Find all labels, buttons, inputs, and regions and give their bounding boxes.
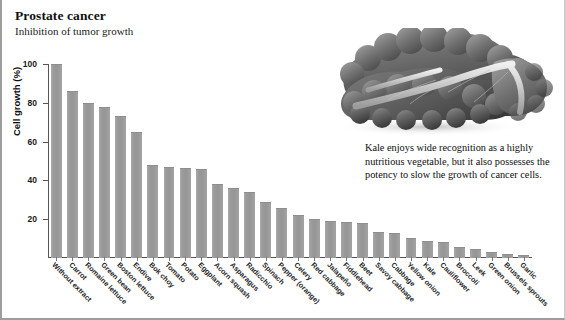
bar-slot <box>435 64 451 258</box>
bar-slot <box>64 64 80 258</box>
bar[interactable] <box>325 221 336 258</box>
x-axis-tick <box>492 257 493 261</box>
bar[interactable] <box>406 238 417 258</box>
x-axis-tick <box>217 257 218 261</box>
bar-slot <box>193 64 209 258</box>
y-axis-tick-label: 80 <box>11 99 37 107</box>
x-axis-tick <box>524 257 525 261</box>
bar[interactable] <box>293 215 304 258</box>
x-axis-tick <box>153 257 154 261</box>
x-axis-tick <box>282 257 283 261</box>
bar-slot <box>451 64 467 258</box>
plot-area <box>48 64 532 258</box>
bar[interactable] <box>131 132 142 258</box>
bar-slot <box>403 64 419 258</box>
x-axis-tick <box>137 257 138 261</box>
bar[interactable] <box>260 202 271 258</box>
bar-slot <box>484 64 500 258</box>
bar[interactable] <box>196 169 207 258</box>
y-axis-tick <box>43 64 49 65</box>
bar[interactable] <box>147 165 158 258</box>
y-axis-tick <box>43 219 49 220</box>
x-axis-tick <box>121 257 122 261</box>
bar[interactable] <box>244 192 255 258</box>
x-axis-labels: Without extractCarrotRomaine lettuceGree… <box>48 261 532 319</box>
x-axis-tick <box>314 257 315 261</box>
bar-slot <box>290 64 306 258</box>
bar-slot <box>48 64 64 258</box>
bar-slot <box>129 64 145 258</box>
bar-slot <box>209 64 225 258</box>
bar[interactable] <box>438 242 449 258</box>
x-axis-tick <box>88 257 89 261</box>
bar-slot <box>306 64 322 258</box>
y-axis-tick-label: 20 <box>11 215 37 223</box>
x-axis-tick <box>250 257 251 261</box>
x-axis-tick <box>72 257 73 261</box>
bar-slot <box>322 64 338 258</box>
y-axis-tick <box>43 180 49 181</box>
bar[interactable] <box>67 91 78 258</box>
bar-slot <box>371 64 387 258</box>
bar-slot <box>419 64 435 258</box>
bar[interactable] <box>389 233 400 258</box>
y-axis-tick <box>43 142 49 143</box>
x-axis-tick <box>330 257 331 261</box>
chart-figure: Prostate cancer Inhibition of tumor grow… <box>0 0 565 320</box>
bar[interactable] <box>51 64 62 258</box>
bar[interactable] <box>309 219 320 258</box>
page-title: Prostate cancer <box>15 8 133 23</box>
x-axis-tick <box>298 257 299 261</box>
x-axis-tick <box>104 257 105 261</box>
bar-series <box>48 64 532 258</box>
bar-slot <box>242 64 258 258</box>
x-axis-tick <box>476 257 477 261</box>
x-axis-tick <box>234 257 235 261</box>
x-axis-tick <box>201 257 202 261</box>
x-axis-tick <box>346 257 347 261</box>
bar[interactable] <box>341 222 352 258</box>
bar-slot <box>338 64 354 258</box>
x-axis-tick <box>395 257 396 261</box>
y-axis-tick <box>43 103 49 104</box>
chart-heading: Prostate cancer Inhibition of tumor grow… <box>15 8 133 38</box>
bar[interactable] <box>99 107 110 258</box>
bar-slot <box>113 64 129 258</box>
bar-slot <box>161 64 177 258</box>
x-axis-tick <box>169 257 170 261</box>
bar-slot <box>516 64 532 258</box>
bar[interactable] <box>212 184 223 258</box>
y-axis-tick-label: 100 <box>11 60 37 68</box>
bar-slot <box>258 64 274 258</box>
bar[interactable] <box>180 168 191 258</box>
bar-slot <box>80 64 96 258</box>
y-axis-tick-label: 60 <box>11 138 37 146</box>
x-axis-tick <box>411 257 412 261</box>
x-axis-tick <box>266 257 267 261</box>
bar-slot <box>467 64 483 258</box>
x-axis-tick <box>379 257 380 261</box>
bar[interactable] <box>228 188 239 258</box>
bar-slot <box>96 64 112 258</box>
x-axis-tick <box>56 257 57 261</box>
bar[interactable] <box>357 223 368 258</box>
x-axis-tick <box>443 257 444 261</box>
x-axis-tick <box>363 257 364 261</box>
x-axis-tick <box>508 257 509 261</box>
bar-slot <box>225 64 241 258</box>
y-axis-tick-label: 40 <box>11 176 37 184</box>
x-axis-tick <box>427 257 428 261</box>
bar[interactable] <box>373 232 384 258</box>
bar-slot <box>177 64 193 258</box>
bar-slot <box>145 64 161 258</box>
x-axis-tick <box>185 257 186 261</box>
chart-subtitle: Inhibition of tumor growth <box>15 24 133 38</box>
bar[interactable] <box>115 116 126 258</box>
bar-slot <box>274 64 290 258</box>
bar[interactable] <box>276 208 287 258</box>
bar-slot <box>500 64 516 258</box>
bar[interactable] <box>83 103 94 258</box>
bar[interactable] <box>422 241 433 258</box>
bar[interactable] <box>164 167 175 258</box>
bar-slot <box>355 64 371 258</box>
